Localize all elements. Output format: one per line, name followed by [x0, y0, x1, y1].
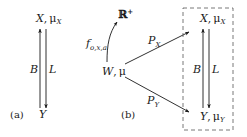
- panel-b-node-rplus: ℝ+: [118, 7, 133, 21]
- panel-a: X,μX B L Y (a): [10, 12, 63, 121]
- panel-b-label-py: PY: [146, 94, 160, 109]
- panel-b-label-b: B: [192, 63, 201, 76]
- panel-b-arrow-f: [107, 22, 117, 62]
- panel-a-caption: (a): [10, 109, 24, 120]
- panel-b-label-f: fo,x,a: [85, 37, 107, 52]
- panel-b-node-y: Y,μY: [200, 110, 226, 124]
- panel-b-label-l: L: [211, 63, 219, 76]
- panel-a-label-l: L: [48, 63, 56, 76]
- panel-a-label-b: B: [29, 63, 38, 76]
- panel-b-label-px: PX: [147, 34, 161, 49]
- panel-b: ℝ+ fo,x,a W,μ PX PY (b) X,μX B L Y,μY: [85, 7, 233, 130]
- panel-a-node-y: Y: [39, 108, 48, 121]
- panel-b-node-x: X,μX: [199, 12, 227, 26]
- diagram-canvas: X,μX B L Y (a) ℝ+ fo,x,a W,μ PX PY (b) X…: [0, 0, 247, 137]
- panel-b-caption: (b): [121, 109, 135, 120]
- panel-b-node-w: W,μ: [102, 65, 126, 78]
- panel-a-node-x: X,μX: [35, 12, 63, 26]
